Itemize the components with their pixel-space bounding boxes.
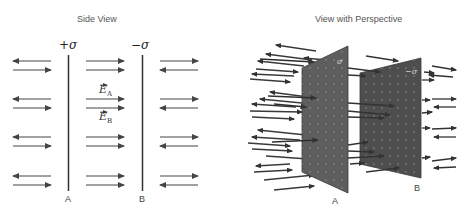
persp-plate-b-label: B [414,183,420,193]
plate-b-label: B [139,194,145,204]
plate-a-label: A [65,194,71,204]
side-view-diagram [0,0,234,215]
persp-plate-b-charge: −σ [405,67,417,76]
field-label-eb: EB [99,110,112,125]
side-view-panel: Side View +σ −σ [0,0,234,215]
persp-plate-a-label: A [332,196,338,206]
perspective-view-panel: View with Perspective [234,0,467,215]
field-label-ea: EA [99,83,112,98]
perspective-diagram [234,0,467,215]
persp-plate-a-charge: σ [337,57,342,66]
